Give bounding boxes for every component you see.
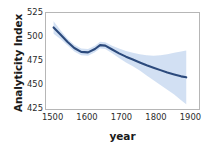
analyticity-index-chart: Analyticity Index 425450475500525 150016… [0, 0, 217, 149]
y-tick-label: 450 [17, 80, 43, 88]
x-axis-title: year [45, 130, 200, 142]
x-axis-tick-labels: 15001600170018001900 [0, 113, 217, 127]
y-tick-label: 525 [17, 8, 43, 16]
y-tick-label: 500 [17, 32, 43, 40]
plot-area [45, 12, 200, 110]
y-tick-label: 425 [17, 104, 43, 112]
y-tick-label: 475 [17, 56, 43, 64]
confidence-band [54, 21, 187, 104]
x-tick-label: 1900 [170, 113, 210, 121]
plot-svg [46, 13, 199, 109]
